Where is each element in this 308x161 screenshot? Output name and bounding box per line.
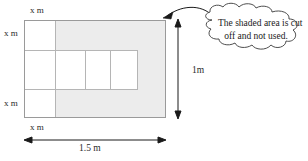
- white-corner-top-left: [24, 20, 55, 50]
- label-left-upper-x: x m: [4, 29, 18, 38]
- geometry-diagram: x m x m x m x m 1.5 m 1m The shaded area…: [0, 0, 308, 161]
- height-arrow-head-top: [175, 19, 181, 27]
- label-height-dimension: 1m: [192, 66, 204, 76]
- height-dimension-arrow: [175, 19, 181, 119]
- width-arrow-head-left: [24, 137, 32, 143]
- shaded-region: [24, 20, 166, 118]
- leader-arrow-head: [163, 12, 173, 19]
- white-middle-band: [24, 50, 138, 90]
- callout-line-1: The shaded area is cut: [218, 17, 294, 30]
- width-arrow-head-right: [158, 137, 166, 143]
- label-top-x: x m: [30, 6, 44, 15]
- height-arrow-head-bottom: [175, 111, 181, 119]
- white-corner-bottom-left: [24, 90, 55, 118]
- label-width-dimension: 1.5 m: [79, 144, 101, 154]
- label-bottom-x: x m: [30, 123, 44, 132]
- callout-line-2: off and not used.: [218, 30, 294, 43]
- label-left-lower-x: x m: [4, 99, 18, 108]
